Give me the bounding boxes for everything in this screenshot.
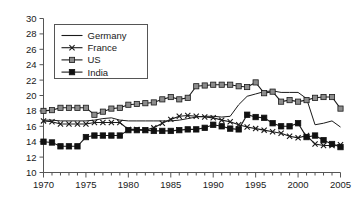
x-axis-tick-labels: 19701975198019851990199520002005 (33, 179, 351, 190)
series-marker-us (270, 89, 275, 94)
series-marker-india (321, 137, 326, 142)
y-tick-label: 18 (26, 105, 37, 116)
chart-canvas: 1012141618202224262830 19701975198019851… (0, 0, 353, 202)
y-tick-label: 16 (26, 121, 37, 132)
series-marker-us (151, 100, 156, 105)
series-marker-us (143, 101, 148, 106)
series-marker-india (236, 127, 241, 132)
series-marker-india (329, 141, 334, 146)
series-marker-india (100, 133, 105, 138)
series-marker-us (245, 84, 250, 89)
series-marker-us (228, 82, 233, 87)
series-marker-us (75, 105, 80, 110)
y-axis-ticks (40, 19, 44, 173)
x-tick-label: 2005 (330, 179, 351, 190)
series-marker-india (66, 144, 71, 149)
series-marker-us (304, 98, 309, 103)
series-marker-india (202, 125, 207, 130)
series-marker-india (194, 127, 199, 132)
series-marker-us (279, 99, 284, 104)
series-marker-us (211, 82, 216, 87)
series-line-france (44, 116, 341, 146)
series-marker-india (253, 114, 258, 119)
series-marker-india (219, 124, 224, 129)
series-marker-us (168, 94, 173, 99)
series-marker-india (109, 133, 114, 138)
y-tick-label: 12 (26, 152, 37, 163)
series-marker-india (338, 144, 343, 149)
x-tick-label: 1990 (203, 179, 224, 190)
series-marker-us (92, 112, 97, 117)
series-marker-us (287, 98, 292, 103)
series-marker-india (92, 133, 97, 138)
legend-swatch-marker (69, 57, 74, 62)
series-marker-us (134, 101, 139, 106)
series-marker-india (261, 115, 266, 120)
series-marker-india (185, 127, 190, 132)
series-marker-us (312, 95, 317, 100)
legend-label: US (88, 54, 101, 65)
series-marker-india (295, 121, 300, 126)
x-tick-label: 1970 (33, 179, 54, 190)
y-tick-label: 30 (26, 13, 37, 24)
series-marker-india (312, 133, 317, 138)
series-marker-us (126, 102, 131, 107)
series-marker-us (100, 109, 105, 114)
series-marker-india (168, 128, 173, 133)
y-tick-label: 24 (26, 59, 37, 70)
y-tick-label: 10 (26, 167, 37, 178)
series-line-india (44, 115, 341, 147)
y-tick-label: 22 (26, 75, 37, 86)
x-tick-label: 1980 (118, 179, 139, 190)
series-marker-india (227, 126, 232, 131)
series-marker-india (177, 127, 182, 132)
series-marker-india (270, 121, 275, 126)
series-marker-us (219, 82, 224, 87)
y-tick-label: 26 (26, 44, 37, 55)
series-marker-us (109, 106, 114, 111)
series-marker-india (143, 127, 148, 132)
series-marker-india (287, 124, 292, 129)
series-marker-india (126, 127, 131, 132)
x-tick-label: 2000 (288, 179, 309, 190)
series-marker-india (151, 128, 156, 133)
series-marker-us (295, 99, 300, 104)
chart-legend: GermanyFranceUSIndia (55, 25, 148, 79)
series-marker-india (244, 112, 249, 117)
series-marker-us (160, 97, 165, 102)
series-marker-india (160, 128, 165, 133)
series-marker-us (58, 105, 63, 110)
line-chart: 1012141618202224262830 19701975198019851… (0, 0, 353, 202)
legend-label: Germany (88, 30, 127, 41)
series-marker-us (66, 105, 71, 110)
y-axis-tick-labels: 1012141618202224262830 (26, 13, 37, 178)
series-marker-us (338, 106, 343, 111)
series-marker-india (211, 122, 216, 127)
chart-series-group (41, 80, 343, 150)
series-marker-us (202, 83, 207, 88)
series-marker-us (49, 108, 54, 113)
legend-swatch-marker (69, 69, 74, 74)
series-marker-india (49, 140, 54, 145)
x-tick-label: 1975 (75, 179, 96, 190)
series-marker-us (236, 84, 241, 89)
series-marker-india (304, 134, 309, 139)
series-marker-india (278, 124, 283, 129)
series-marker-us (185, 95, 190, 100)
series-marker-india (58, 144, 63, 149)
x-axis-ticks (44, 173, 341, 178)
series-marker-india (75, 144, 80, 149)
series-marker-india (41, 139, 46, 144)
series-marker-india (83, 134, 88, 139)
series-marker-us (177, 97, 182, 102)
y-tick-label: 14 (26, 136, 37, 147)
series-us (41, 80, 343, 118)
y-tick-label: 20 (26, 90, 37, 101)
series-marker-us (329, 94, 334, 99)
y-tick-label: 28 (26, 28, 37, 39)
x-tick-label: 1985 (160, 179, 181, 190)
series-marker-us (253, 80, 258, 85)
series-marker-us (83, 105, 88, 110)
series-marker-india (117, 133, 122, 138)
series-marker-us (117, 105, 122, 110)
